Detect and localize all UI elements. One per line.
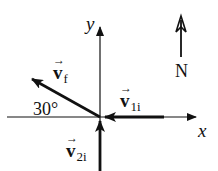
diagram-graphics (0, 0, 218, 171)
vector-arrow-icon: → (53, 54, 65, 66)
vector-arrow-icon: → (120, 82, 132, 94)
y-axis-label: y (86, 14, 94, 33)
north-label: N (175, 62, 188, 80)
vf-subscript: f (64, 71, 68, 86)
vector-v2i-label: →v2i (66, 141, 87, 163)
v1i-subscript: 1i (131, 99, 141, 114)
vector-vf-label: →vf (53, 63, 68, 85)
v2i-subscript: 2i (77, 149, 87, 164)
vector-arrow-icon: → (66, 132, 78, 144)
angle-label: 30° (33, 100, 58, 118)
north-arrow-icon (176, 16, 186, 57)
vector-v1i-label: →v1i (120, 91, 141, 113)
x-axis-label: x (198, 121, 206, 140)
vector-diagram: y x →vf 30° →v1i →v2i N (0, 0, 218, 171)
